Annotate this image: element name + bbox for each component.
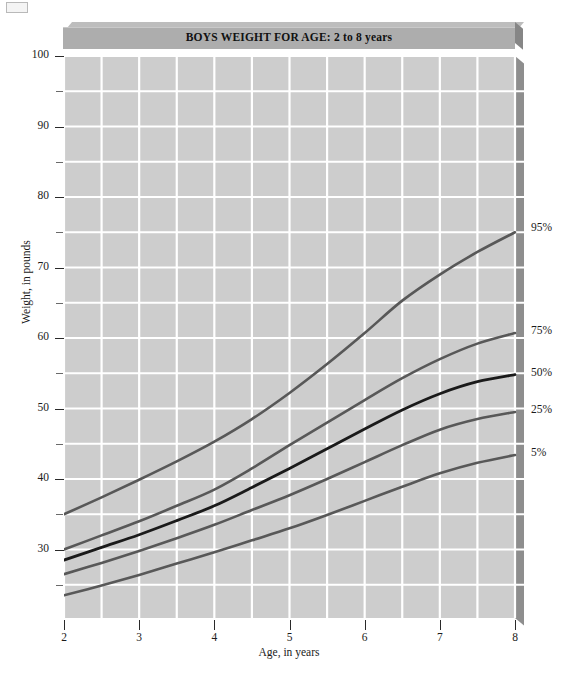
corner-mark <box>6 2 28 13</box>
x-tick-label: 7 <box>428 631 452 643</box>
x-axis-title: Age, in years <box>0 646 578 658</box>
y-tick-major <box>55 479 64 480</box>
y-tick-major <box>55 338 64 339</box>
y-tick-label: 80 <box>15 189 49 201</box>
y-tick-major <box>55 409 64 410</box>
y-tick-minor <box>56 514 63 515</box>
x-tick-label: 2 <box>52 631 76 643</box>
y-tick-major <box>55 268 64 269</box>
plot-area <box>64 56 515 618</box>
title-bar-side-bevel <box>515 22 523 50</box>
horizontal-gridlines <box>64 56 524 585</box>
x-tick-mark <box>64 620 65 630</box>
plot-svg <box>64 56 524 622</box>
x-tick-mark <box>365 620 366 630</box>
y-tick-minor <box>56 303 63 304</box>
y-tick-label: 40 <box>15 471 49 483</box>
x-tick-mark <box>139 620 140 630</box>
y-tick-major <box>55 127 64 128</box>
y-tick-major <box>55 197 64 198</box>
percentile-label-50pct: 50% <box>531 366 552 378</box>
x-tick-label: 3 <box>127 631 151 643</box>
y-tick-minor <box>56 585 63 586</box>
chart-title-bar: BOYS WEIGHT FOR AGE: 2 to 8 years <box>63 22 523 48</box>
percentile-label-95pct: 95% <box>531 221 552 233</box>
y-tick-label: 30 <box>15 542 49 554</box>
y-tick-minor <box>56 373 63 374</box>
y-tick-label: 90 <box>15 119 49 131</box>
y-tick-label: 50 <box>15 401 49 413</box>
chart-title: BOYS WEIGHT FOR AGE: 2 to 8 years <box>63 27 515 48</box>
x-tick-mark <box>214 620 215 630</box>
y-tick-minor <box>56 232 63 233</box>
x-tick-mark <box>515 620 516 630</box>
percentile-label-75pct: 75% <box>531 324 552 336</box>
y-tick-major <box>55 56 64 57</box>
percentile-label-25pct: 25% <box>531 403 552 415</box>
x-tick-label: 6 <box>353 631 377 643</box>
y-tick-major <box>55 550 64 551</box>
y-tick-label: 100 <box>15 48 49 60</box>
y-tick-minor <box>56 91 63 92</box>
x-tick-mark <box>440 620 441 630</box>
y-tick-minor <box>56 444 63 445</box>
x-tick-label: 8 <box>503 631 527 643</box>
growth-chart: BOYS WEIGHT FOR AGE: 2 to 8 years 304050… <box>0 0 578 690</box>
x-tick-label: 5 <box>278 631 302 643</box>
x-tick-mark <box>290 620 291 630</box>
y-axis-title: Weight, in pounds <box>20 212 32 352</box>
x-tick-label: 4 <box>202 631 226 643</box>
percentile-label-5pct: 5% <box>531 446 546 458</box>
y-tick-minor <box>56 162 63 163</box>
